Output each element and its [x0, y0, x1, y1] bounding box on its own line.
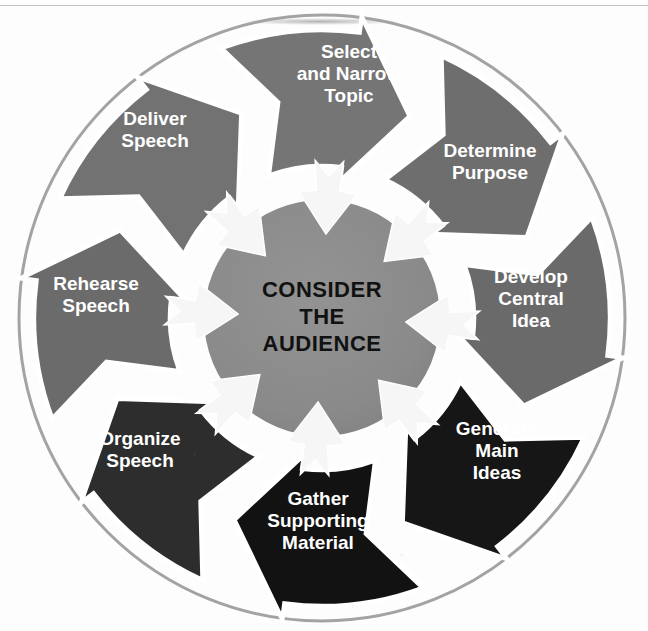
step-label-line: Rehearse [53, 273, 139, 294]
step-label-line: Gather [287, 488, 349, 509]
cycle-step-wedge-rehearse-speech[interactable] [21, 230, 186, 419]
step-label-line: Central [498, 288, 563, 309]
step-label-line: Idea [512, 310, 550, 331]
step-label-line: Select [321, 41, 378, 62]
step-label-deliver-speech: DeliverSpeech [121, 108, 189, 151]
center-text-line: AUDIENCE [263, 331, 382, 356]
step-label-line: Develop [494, 266, 568, 287]
center-text-line: THE [299, 304, 345, 329]
step-label-organize-speech: OrganizeSpeech [99, 428, 180, 471]
cycle-step-wedge-organize-speech[interactable] [81, 399, 259, 580]
step-label-line: Speech [62, 295, 130, 316]
step-label-line: Determine [444, 140, 537, 161]
step-label-rehearse-speech: RehearseSpeech [53, 273, 139, 316]
step-label-line: Generate [456, 418, 538, 439]
speech-preparation-cycle-diagram: Selectand NarrowTopicDeterminePurposeDev… [0, 0, 648, 631]
step-label-line: Organize [99, 428, 180, 449]
step-label-line: Supporting [267, 510, 368, 531]
cycle-step-wedge-select-and-narrow-topic[interactable] [221, 17, 410, 182]
step-label-line: Deliver [123, 108, 187, 129]
step-label-line: Purpose [452, 162, 528, 183]
step-label-line: Material [282, 532, 354, 553]
figure-canvas: Selectand NarrowTopicDeterminePurposeDev… [0, 0, 648, 631]
step-label-line: and Narrow [297, 63, 402, 84]
cycle-step-wedge-deliver-speech[interactable] [60, 77, 241, 255]
step-label-line: Main [475, 440, 518, 461]
step-label-line: Ideas [473, 462, 522, 483]
step-label-line: Speech [106, 450, 174, 471]
step-label-line: Speech [121, 130, 189, 151]
center-text-line: CONSIDER [262, 277, 382, 302]
step-label-determine-purpose: DeterminePurpose [444, 140, 537, 183]
step-label-line: Topic [324, 85, 374, 106]
